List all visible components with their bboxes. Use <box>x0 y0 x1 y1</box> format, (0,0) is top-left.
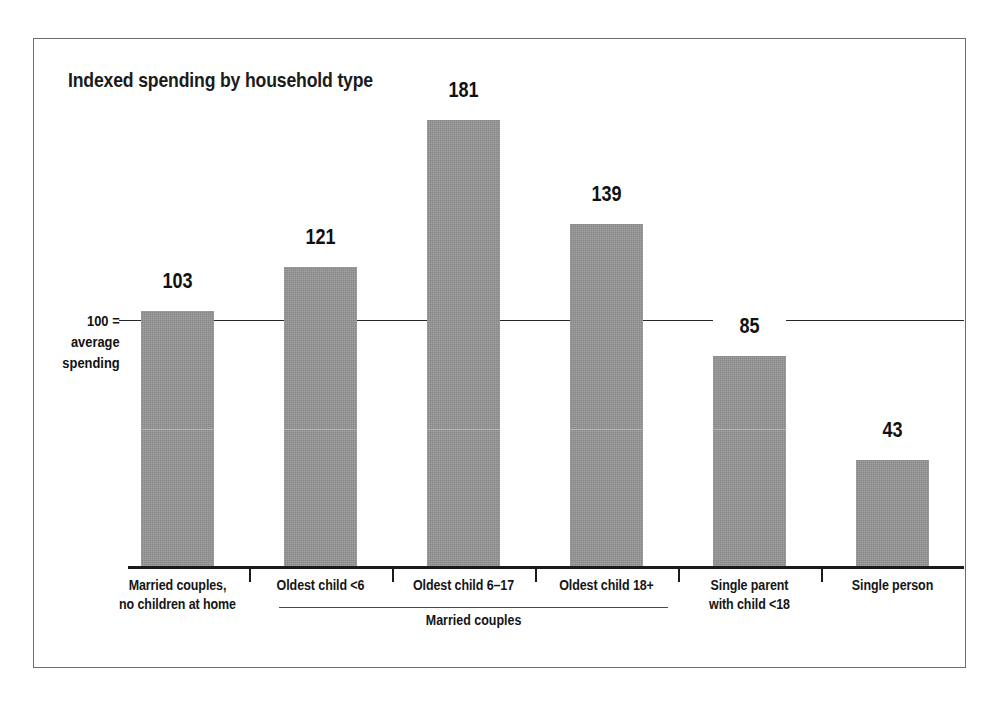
bar-value-label: 181 <box>434 77 494 103</box>
bar-value-label: 121 <box>291 224 351 250</box>
chart-figure: Indexed spending by household type 103 1… <box>0 0 1000 709</box>
print-seam-artifact <box>128 429 964 430</box>
group-bracket-label: Married couples <box>279 612 668 628</box>
bar-value-label: 85 <box>720 313 780 339</box>
category-label-line: with child <18 <box>687 595 812 614</box>
reference-line-100 <box>643 320 713 321</box>
bar-married-no-children <box>141 311 214 566</box>
reference-line-stub <box>119 320 141 321</box>
axis-tick <box>821 569 823 582</box>
category-label-line: Single person <box>830 576 955 595</box>
bar-oldest-child-under-6 <box>284 267 357 566</box>
category-label-line: Single parent <box>687 576 812 595</box>
axis-tick <box>535 569 537 582</box>
plot-area: 103 121 181 139 85 43 100 = average spen… <box>0 0 1000 709</box>
category-label: Married couples, no children at home <box>115 576 240 614</box>
category-label: Oldest child <6 <box>258 576 383 595</box>
bar-oldest-child-6-17 <box>427 120 500 566</box>
reference-line-100 <box>786 320 964 321</box>
reference-line-100 <box>357 320 427 321</box>
x-axis-line <box>128 566 964 569</box>
bar-single-person <box>856 460 929 566</box>
category-label-line: Oldest child 6–17 <box>401 576 526 595</box>
category-label-line: Oldest child 18+ <box>544 576 669 595</box>
category-label: Oldest child 18+ <box>544 576 669 595</box>
category-label: Single person <box>830 576 955 595</box>
group-bracket-label-text: Married couples <box>426 612 522 628</box>
bar-value-label: 43 <box>863 417 923 443</box>
category-label-line: Oldest child <6 <box>258 576 383 595</box>
axis-tick <box>678 569 680 582</box>
reference-label-line2: average <box>63 331 120 352</box>
bar-value-label: 139 <box>577 181 637 207</box>
reference-label-line3: spending <box>63 352 120 373</box>
bar-single-parent-child-under-18 <box>713 356 786 566</box>
reference-line-100 <box>214 320 284 321</box>
axis-tick <box>249 569 251 582</box>
group-bracket-line <box>279 607 668 608</box>
category-label-line: Married couples, <box>115 576 240 595</box>
category-label: Single parent with child <18 <box>687 576 812 614</box>
category-label: Oldest child 6–17 <box>401 576 526 595</box>
reference-label: 100 = average spending <box>30 310 120 380</box>
axis-tick <box>392 569 394 582</box>
reference-line-100 <box>500 320 570 321</box>
bar-oldest-child-18-plus <box>570 224 643 566</box>
category-label-line: no children at home <box>115 595 240 614</box>
reference-label-line1: 100 = <box>63 310 120 331</box>
bar-value-label: 103 <box>148 268 208 294</box>
